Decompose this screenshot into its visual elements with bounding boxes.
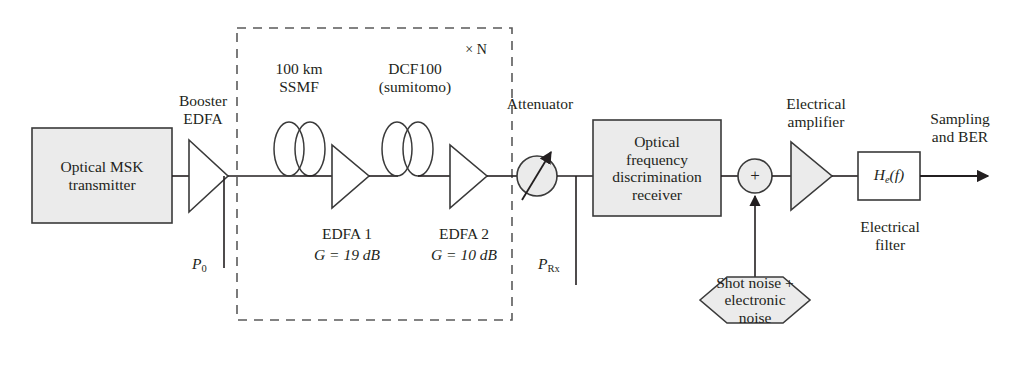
attenuator-icon: [517, 152, 557, 200]
electrical-amplifier-triangle: [791, 142, 832, 210]
dcf-spool-icon: [382, 122, 433, 176]
output-label: Sampling and BER: [912, 110, 1008, 145]
edfa2-triangle: [450, 145, 487, 208]
edfa1-gain: G = 19 dB: [288, 246, 406, 264]
dcf-label: DCF100 (sumitomo): [354, 60, 476, 95]
transmitter-label: Optical MSK transmitter: [32, 128, 172, 223]
attenuator-label: Attenuator: [490, 95, 590, 113]
booster-edfa-caption: Booster EDFA: [148, 92, 258, 127]
edfa2-caption: EDFA 2: [405, 225, 523, 243]
edfa2-gain: G = 10 dB: [405, 246, 523, 264]
edfa1-caption: EDFA 1: [288, 225, 406, 243]
electrical-filter-label: He(f): [858, 152, 920, 200]
edfa1-triangle: [332, 145, 369, 208]
ssmf-spool-icon: [274, 122, 325, 176]
span-repeat-label: × N: [450, 41, 502, 59]
summing-junction-symbol: +: [738, 159, 772, 193]
ssmf-label: 100 km SSMF: [243, 60, 355, 95]
power-rx-label: PRx: [538, 255, 580, 275]
filter-transfer-function: He(f): [874, 166, 905, 186]
noise-source-label: Shot noise + electronic noise: [700, 277, 810, 323]
power-rx-subscript: Rx: [547, 263, 559, 274]
electrical-filter-caption: Electrical filter: [832, 218, 948, 253]
power-tx-label: P0: [192, 255, 232, 275]
electrical-amplifier-caption: Electrical amplifier: [758, 95, 874, 130]
optical-system-block-diagram: Optical MSK transmitter Booster EDFA 100…: [0, 0, 1011, 378]
booster-edfa-triangle: [189, 140, 228, 212]
power-tx-subscript: 0: [201, 263, 206, 274]
receiver-label: Optical frequency discrimination receive…: [593, 120, 721, 216]
